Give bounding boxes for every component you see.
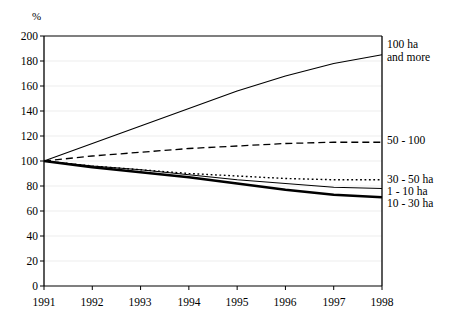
chart-canvas [0, 0, 453, 323]
line-chart: % 200 180 160 140 120 100 80 60 40 20 0 … [0, 0, 453, 323]
series-line-100-ha-and-more [44, 55, 382, 161]
gridlines [44, 61, 382, 261]
axis-ticks [40, 36, 382, 290]
series-paths [44, 55, 382, 198]
series-line-10-30-ha [44, 161, 382, 197]
series-line-50-100 [44, 142, 382, 161]
series-line-1-10-ha [44, 161, 382, 189]
